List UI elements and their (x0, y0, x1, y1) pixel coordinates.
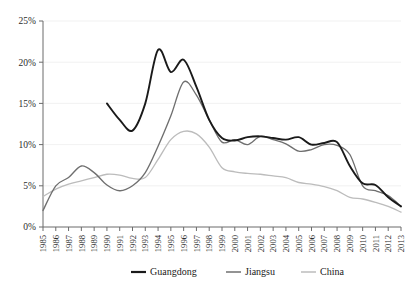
y-tick-label: 0% (23, 222, 36, 232)
x-tick-label: 1997 (192, 234, 202, 252)
x-tick-label: 1991 (115, 235, 125, 252)
x-axis: 1985198619871988198919901991199219931994… (38, 227, 406, 252)
x-tick-label: 1989 (89, 235, 99, 252)
x-tick-label: 2005 (294, 235, 304, 252)
x-tick-label: 1994 (153, 234, 163, 252)
y-tick-label: 20% (19, 58, 37, 68)
x-tick-label: 2003 (268, 235, 278, 252)
x-tick-label: 2010 (358, 235, 368, 252)
x-tick-label: 2001 (243, 235, 253, 252)
x-tick-label: 1993 (140, 235, 150, 252)
y-axis: 0%5%10%15%20%25% (19, 16, 43, 232)
x-tick-label: 1995 (166, 235, 176, 252)
x-tick-label: 2013 (396, 235, 406, 252)
legend-label-guangdong: Guangdong (150, 266, 197, 277)
legend-label-jiangsu: Jiangsu (245, 266, 275, 277)
line-chart: 0%5%10%15%20%25% 19851986198719881989199… (0, 0, 416, 291)
x-tick-label: 2002 (256, 235, 266, 252)
chart-canvas: 0%5%10%15%20%25% 19851986198719881989199… (0, 0, 416, 291)
x-tick-label: 2000 (230, 235, 240, 252)
x-tick-label: 1985 (38, 235, 48, 252)
series-line-guangdong (107, 49, 401, 206)
series-line-china (43, 131, 401, 212)
x-tick-label: 1990 (102, 235, 112, 252)
x-tick-label: 2006 (307, 234, 317, 252)
x-tick-label: 1999 (217, 235, 227, 252)
x-tick-label: 2009 (345, 235, 355, 252)
x-tick-label: 2007 (319, 234, 329, 252)
series-line-jiangsu (43, 81, 401, 210)
x-tick-label: 1998 (204, 235, 214, 252)
chart-legend: GuangdongJiangsuChina (131, 266, 344, 277)
legend-label-china: China (320, 266, 344, 277)
data-series (43, 49, 401, 212)
x-tick-label: 2008 (332, 235, 342, 252)
x-tick-label: 1996 (179, 234, 189, 252)
y-tick-label: 10% (19, 140, 37, 150)
x-tick-label: 2012 (383, 235, 393, 252)
x-tick-label: 1986 (51, 234, 61, 252)
x-tick-label: 1987 (64, 234, 74, 252)
y-tick-label: 15% (19, 99, 37, 109)
x-tick-label: 1988 (77, 235, 87, 252)
x-tick-label: 2011 (371, 235, 381, 252)
y-tick-label: 5% (23, 181, 36, 191)
y-tick-label: 25% (19, 16, 37, 26)
x-tick-label: 1992 (128, 235, 138, 252)
x-tick-label: 2004 (281, 234, 291, 252)
